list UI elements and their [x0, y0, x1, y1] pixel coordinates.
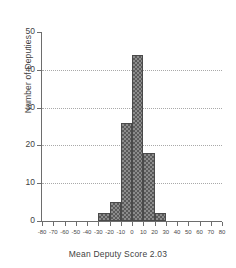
y-tick-label: 40 [26, 64, 35, 75]
x-tick--20 [110, 222, 111, 226]
histogram-bar [143, 153, 154, 221]
plot-area: 01020304050 -80-70-60-50-40-30-20-100102… [41, 32, 222, 221]
y-tick-mark [37, 108, 41, 109]
histogram-figure: Number of Deputies 01020304050 -80-70-60… [0, 0, 236, 268]
histogram-bar [121, 123, 132, 221]
y-tick-mark [37, 221, 41, 222]
x-axis-title: Mean Deputy Score 2.03 [0, 249, 236, 259]
y-tick-label: 50 [26, 26, 35, 37]
histogram-bar [110, 202, 121, 221]
x-tick-30 [166, 222, 167, 226]
bars-group [42, 32, 222, 221]
x-tick--40 [87, 222, 88, 226]
y-axis-title: Number of Deputies [21, 0, 35, 159]
x-tick-label-80: 80 [211, 228, 233, 236]
y-tick-label: 10 [26, 177, 35, 188]
y-tick-mark [37, 32, 41, 33]
x-tick-40 [177, 222, 178, 226]
x-tick-0 [132, 222, 133, 226]
x-tick--80 [42, 222, 43, 226]
histogram-bar [98, 213, 109, 221]
x-tick--50 [76, 222, 77, 226]
x-tick-60 [200, 222, 201, 226]
x-tick--10 [121, 222, 122, 226]
x-tick-50 [188, 222, 189, 226]
y-tick-label: 0 [30, 215, 35, 226]
y-tick-mark [37, 70, 41, 71]
y-tick-mark [37, 183, 41, 184]
y-tick-label: 20 [26, 139, 35, 150]
x-tick-70 [211, 222, 212, 226]
histogram-bar [155, 213, 166, 221]
x-tick-20 [155, 222, 156, 226]
x-tick--30 [98, 222, 99, 226]
x-tick--60 [65, 222, 66, 226]
y-tick-mark [37, 145, 41, 146]
x-tick-80 [222, 222, 223, 226]
x-tick-10 [143, 222, 144, 226]
histogram-bar [132, 55, 143, 221]
x-tick--70 [53, 222, 54, 226]
y-tick-label: 30 [26, 102, 35, 113]
